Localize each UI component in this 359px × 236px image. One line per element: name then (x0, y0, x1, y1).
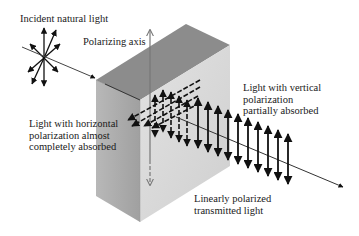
label-line: polarization (243, 94, 321, 106)
natural-light-starburst-icon (28, 28, 60, 86)
label-line: Linearly polarized (194, 193, 271, 205)
label-line: transmitted light (194, 205, 271, 217)
label-line: polarization almost (29, 130, 118, 142)
incident-light-label: Incident natural light (20, 13, 108, 25)
transmitted-light-label: Linearly polarized transmitted light (194, 193, 271, 216)
vertical-polarization-label: Light with vertical polarization partial… (243, 82, 321, 117)
horizontal-polarization-label: Light with horizontal polarization almos… (29, 118, 118, 153)
label-line: partially absorbed (243, 105, 321, 117)
label-line: Light with vertical (243, 82, 321, 94)
polarizing-axis-label: Polarizing axis (83, 36, 146, 48)
label-line: Light with horizontal (29, 118, 118, 130)
label-line: completely absorbed (29, 141, 118, 153)
polarizer-diagram: Incident natural light Polarizing axis L… (0, 0, 359, 236)
